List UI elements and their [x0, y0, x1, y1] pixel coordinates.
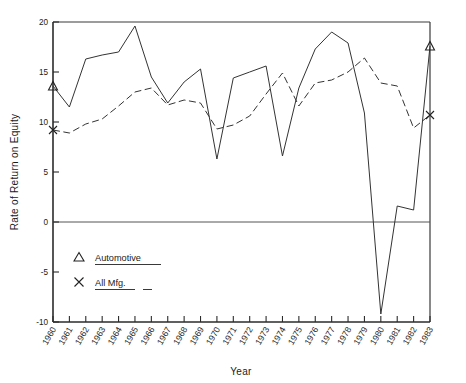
xtick-label: 1966 — [138, 325, 156, 347]
y-axis-tick-labels: 20 15 10 5 0 -5 -10 — [36, 18, 48, 327]
ytick-label: -5 — [41, 268, 49, 277]
xtick-label: 1960 — [40, 325, 58, 347]
x-axis-tick-labels: 1960196119621963196419651966196719681969… — [40, 325, 435, 347]
xtick-label: 1963 — [89, 325, 107, 347]
xtick-label: 1968 — [171, 325, 189, 347]
ytick-label: -10 — [36, 318, 48, 327]
xtick-label: 1973 — [253, 325, 271, 347]
chart-figure: 20 15 10 5 0 -5 -10 Rate of Return on Eq… — [0, 0, 466, 383]
xtick-label: 1978 — [335, 325, 353, 347]
xtick-label: 1972 — [237, 325, 255, 347]
y-axis-title: Rate of Return on Equity — [9, 114, 20, 231]
xtick-label: 1982 — [401, 325, 419, 347]
xtick-label: 1970 — [204, 325, 222, 347]
plot-frame — [53, 22, 430, 322]
legend-label-all-mfg: All Mfg. — [95, 278, 126, 288]
xtick-label: 1961 — [56, 325, 74, 347]
xtick-label: 1971 — [220, 325, 238, 347]
series-line-all-mfg — [53, 58, 430, 133]
chart-legend: Automotive All Mfg. — [74, 253, 161, 290]
cross-icon — [75, 278, 84, 287]
ytick-label: 5 — [43, 168, 48, 177]
xtick-label: 1980 — [368, 325, 386, 347]
triangle-icon — [74, 253, 84, 262]
xtick-label: 1967 — [155, 325, 173, 347]
xtick-label: 1975 — [286, 325, 304, 347]
ytick-label: 10 — [39, 118, 49, 127]
xtick-label: 1981 — [384, 325, 402, 347]
xtick-label: 1979 — [351, 325, 369, 347]
ytick-label: 20 — [39, 18, 49, 27]
xtick-label: 1962 — [73, 325, 91, 347]
xtick-label: 1976 — [302, 325, 320, 347]
x-axis-title: Year — [230, 366, 252, 377]
xtick-label: 1969 — [188, 325, 206, 347]
series-line-automotive — [53, 26, 430, 314]
xtick-label: 1964 — [106, 325, 124, 347]
y-axis-ticks — [53, 22, 59, 322]
ytick-label: 0 — [43, 218, 48, 227]
x-axis-ticks — [53, 316, 430, 322]
xtick-label: 1974 — [269, 325, 287, 347]
line-chart-svg: 20 15 10 5 0 -5 -10 Rate of Return on Eq… — [0, 0, 466, 383]
xtick-label: 1965 — [122, 325, 140, 347]
xtick-label: 1977 — [319, 325, 337, 347]
legend-label-automotive: Automotive — [95, 253, 141, 263]
ytick-label: 15 — [39, 68, 49, 77]
xtick-label: 1983 — [417, 325, 435, 347]
